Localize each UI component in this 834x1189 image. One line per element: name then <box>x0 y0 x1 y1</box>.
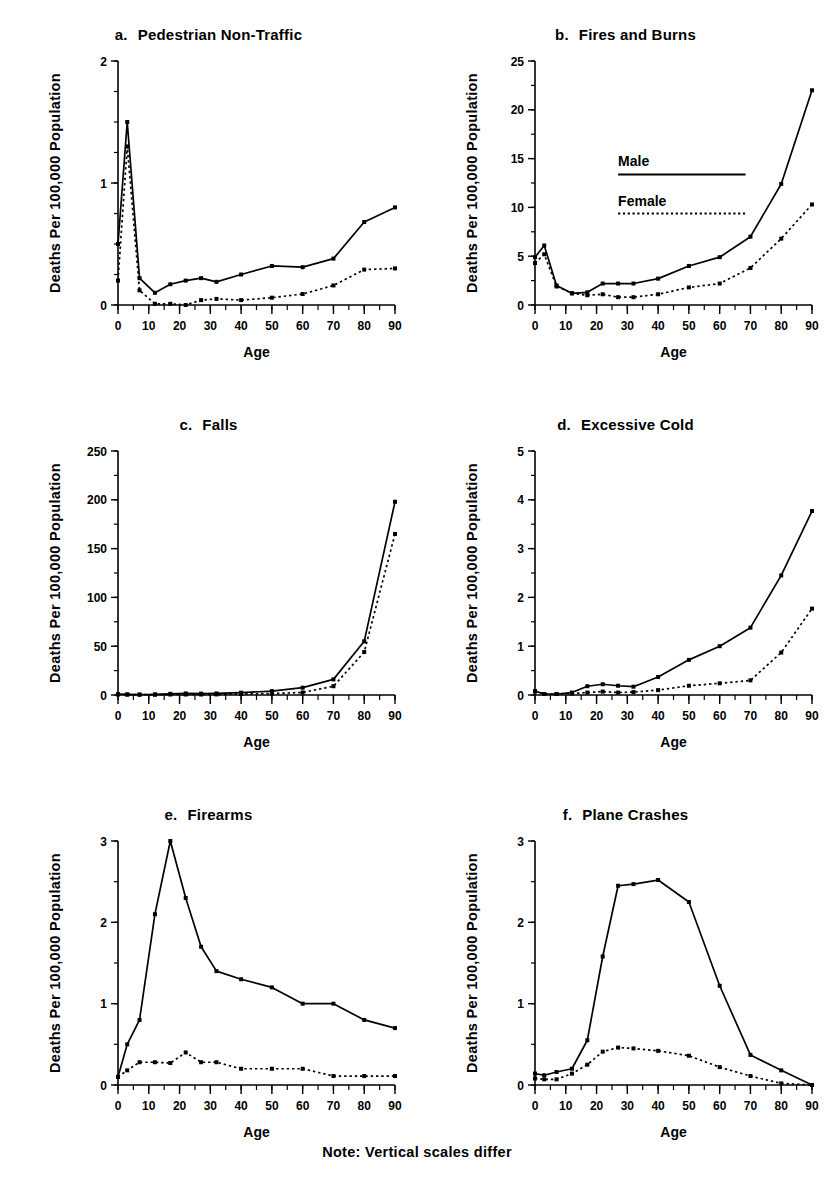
data-point-marker <box>393 266 397 270</box>
data-point-marker <box>362 1074 366 1078</box>
y-tick-label: 3 <box>517 835 524 849</box>
data-point-marker <box>301 1002 305 1006</box>
x-tick-label: 40 <box>234 709 248 723</box>
data-point-marker <box>301 1067 305 1071</box>
y-tick-label: 2 <box>517 916 524 930</box>
panel-title: e.Firearms <box>0 780 417 825</box>
y-tick-label: 0 <box>517 689 524 703</box>
panel-letter: a. <box>115 26 128 43</box>
x-tick-label: 50 <box>682 709 696 723</box>
data-point-marker <box>125 120 129 124</box>
data-point-marker <box>616 684 620 688</box>
x-tick-label: 10 <box>142 709 156 723</box>
panel-letter: b. <box>555 26 569 43</box>
x-tick-label: 0 <box>115 709 122 723</box>
data-point-marker <box>138 288 142 292</box>
plot-svg: 0501001502002500102030405060708090Deaths… <box>0 435 417 765</box>
chart-panel-b: b.Fires and Burns05101520250102030405060… <box>417 0 834 390</box>
data-point-marker <box>239 1067 243 1071</box>
y-tick-label: 5 <box>517 445 524 459</box>
data-point-marker <box>168 1061 172 1065</box>
x-tick-label: 80 <box>775 319 789 333</box>
panel-letter: e. <box>165 806 178 823</box>
data-point-marker <box>199 276 203 280</box>
y-tick-label: 0 <box>100 1079 107 1093</box>
y-tick-label: 2 <box>100 916 107 930</box>
data-point-marker <box>331 1002 335 1006</box>
data-point-marker <box>153 912 157 916</box>
data-point-marker <box>116 692 120 696</box>
x-tick-label: 20 <box>590 319 604 333</box>
data-point-marker <box>687 285 691 289</box>
panel-title: d.Excessive Cold <box>417 390 834 435</box>
series-line-male <box>535 511 812 694</box>
data-point-marker <box>331 677 335 681</box>
data-point-marker <box>656 878 660 882</box>
data-point-marker <box>138 1018 142 1022</box>
y-axis-title: Deaths Per 100,000 Population <box>464 853 480 1073</box>
y-tick-label: 250 <box>87 445 107 459</box>
x-tick-label: 90 <box>388 1099 402 1113</box>
data-point-marker <box>748 1053 752 1057</box>
chart-panel-e: e.Firearms01230102030405060708090Deaths … <box>0 780 417 1150</box>
data-point-marker <box>748 235 752 239</box>
x-tick-label: 20 <box>590 1099 604 1113</box>
y-axis-title: Deaths Per 100,000 Population <box>464 463 480 683</box>
x-tick-label: 90 <box>805 1099 819 1113</box>
data-point-marker <box>687 264 691 268</box>
data-point-marker <box>184 303 188 307</box>
x-tick-label: 10 <box>142 319 156 333</box>
data-point-marker <box>270 264 274 268</box>
x-tick-label: 70 <box>327 709 341 723</box>
data-point-marker <box>533 261 537 265</box>
panel-letter: f. <box>563 806 573 823</box>
x-tick-label: 80 <box>775 1099 789 1113</box>
data-point-marker <box>270 296 274 300</box>
y-tick-label: 15 <box>511 152 525 166</box>
plot-area-wrapper: 0120102030405060708090Deaths Per 100,000… <box>0 45 417 375</box>
y-tick-label: 1 <box>517 997 524 1011</box>
data-point-marker <box>555 692 559 696</box>
data-point-marker <box>153 291 157 295</box>
data-point-marker <box>362 220 366 224</box>
data-point-marker <box>362 650 366 654</box>
data-point-marker <box>270 1067 274 1071</box>
data-point-marker <box>616 1046 620 1050</box>
chart-panel-d: d.Excessive Cold012345010203040506070809… <box>417 390 834 780</box>
x-tick-label: 0 <box>532 319 539 333</box>
data-point-marker <box>656 277 660 281</box>
data-point-marker <box>214 692 218 696</box>
data-point-marker <box>616 282 620 286</box>
x-tick-label: 50 <box>265 1099 279 1113</box>
data-point-marker <box>362 268 366 272</box>
data-point-marker <box>393 205 397 209</box>
data-point-marker <box>616 691 620 695</box>
plot-area-wrapper: 0501001502002500102030405060708090Deaths… <box>0 435 417 765</box>
legend-label-male: Male <box>618 153 649 169</box>
data-point-marker <box>718 681 722 685</box>
data-point-marker <box>656 292 660 296</box>
data-point-marker <box>301 265 305 269</box>
plot-area-wrapper: 0123450102030405060708090Deaths Per 100,… <box>417 435 834 765</box>
data-point-marker <box>748 626 752 630</box>
x-tick-label: 0 <box>115 1099 122 1113</box>
data-point-marker <box>184 693 188 697</box>
x-tick-label: 20 <box>173 1099 187 1113</box>
data-point-marker <box>631 295 635 299</box>
data-point-marker <box>656 688 660 692</box>
data-point-marker <box>585 691 589 695</box>
data-point-marker <box>601 682 605 686</box>
data-point-marker <box>631 282 635 286</box>
x-tick-label: 10 <box>142 1099 156 1113</box>
data-point-marker <box>270 985 274 989</box>
data-point-marker <box>542 252 546 256</box>
data-point-marker <box>718 644 722 648</box>
data-point-marker <box>631 1046 635 1050</box>
y-tick-label: 4 <box>517 493 524 507</box>
data-point-marker <box>168 693 172 697</box>
panel-title-text: Pedestrian Non-Traffic <box>138 26 302 43</box>
y-axis-title: Deaths Per 100,000 Population <box>47 463 63 683</box>
data-point-marker <box>687 658 691 662</box>
data-point-marker <box>199 945 203 949</box>
data-point-marker <box>779 182 783 186</box>
